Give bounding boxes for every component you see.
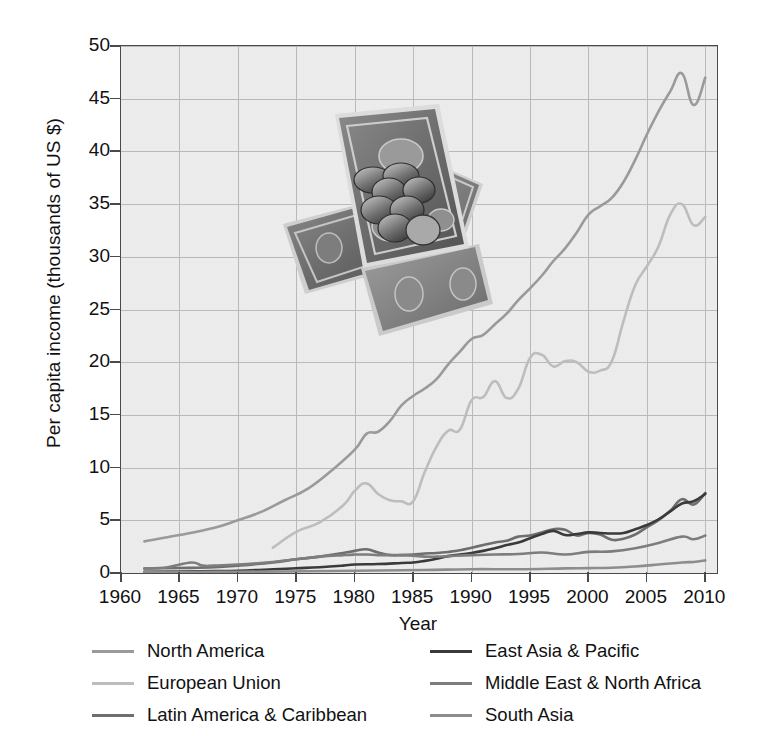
- legend-swatch-icon: [92, 682, 134, 685]
- y-axis-tick-label: 30: [64, 246, 110, 265]
- x-axis-tick-mark: [529, 572, 531, 582]
- legend-item-label: North America: [147, 640, 264, 662]
- x-axis-tick-mark: [704, 572, 706, 582]
- y-axis-tick-labels: 05101520253035404550: [48, 0, 110, 620]
- y-axis-tick-mark: [110, 414, 120, 416]
- y-axis-tick-label: 15: [64, 404, 110, 423]
- y-axis-tick-label: 50: [64, 35, 110, 54]
- x-axis-tick-mark: [237, 572, 239, 582]
- y-axis-tick-mark: [110, 150, 120, 152]
- y-axis-tick-mark: [110, 309, 120, 311]
- legend-swatch-icon: [92, 714, 134, 717]
- legend-item-label: South Asia: [485, 704, 573, 726]
- y-axis-tick-mark: [110, 572, 120, 574]
- y-axis-tick-mark: [110, 519, 120, 521]
- legend-item-label: Middle East & North Africa: [485, 672, 701, 694]
- legend-item[interactable]: North America: [92, 636, 264, 666]
- y-axis-tick-mark: [110, 203, 120, 205]
- legend-item[interactable]: Latin America & Caribbean: [92, 700, 367, 730]
- x-axis-tick-label: 2010: [669, 586, 739, 608]
- legend-item-label: European Union: [147, 672, 281, 694]
- y-axis-tick-label: 20: [64, 351, 110, 370]
- legend-swatch-icon: [430, 682, 472, 685]
- x-axis-tick-mark: [178, 572, 180, 582]
- x-axis-tick-mark: [587, 572, 589, 582]
- x-axis-tick-mark: [646, 572, 648, 582]
- x-axis-label: Year: [120, 613, 716, 635]
- x-axis-tick-mark: [295, 572, 297, 582]
- y-axis-tick-mark: [110, 98, 120, 100]
- x-axis-tick-mark: [412, 572, 414, 582]
- series-line: [144, 494, 705, 572]
- x-axis-tick-mark: [471, 572, 473, 582]
- y-axis-tick-mark: [110, 256, 120, 258]
- legend-swatch-icon: [430, 714, 472, 717]
- y-axis-tick-mark: [110, 45, 120, 47]
- y-axis-tick-label: 35: [64, 193, 110, 212]
- chart-legend: North AmericaEuropean UnionLatin America…: [92, 636, 692, 732]
- data-lines: [121, 46, 717, 573]
- legend-item[interactable]: Middle East & North Africa: [430, 668, 701, 698]
- legend-item[interactable]: East Asia & Pacific: [430, 636, 639, 666]
- chart-figure: Per capita income (thousands of US $) 05…: [0, 0, 769, 736]
- y-axis-tick-label: 45: [64, 88, 110, 107]
- y-axis-tick-mark: [110, 467, 120, 469]
- y-axis-tick-label: 5: [64, 509, 110, 528]
- x-axis-tick-mark: [120, 572, 122, 582]
- legend-item[interactable]: South Asia: [430, 700, 573, 730]
- y-axis-tick-mark: [110, 361, 120, 363]
- y-axis-tick-label: 0: [64, 562, 110, 581]
- legend-item[interactable]: European Union: [92, 668, 281, 698]
- y-axis-tick-label: 25: [64, 299, 110, 318]
- y-axis-tick-label: 10: [64, 457, 110, 476]
- legend-item-label: Latin America & Caribbean: [147, 704, 367, 726]
- legend-swatch-icon: [92, 650, 134, 653]
- legend-item-label: East Asia & Pacific: [485, 640, 639, 662]
- plot-area: [120, 45, 718, 574]
- y-axis-tick-label: 40: [64, 140, 110, 159]
- legend-swatch-icon: [430, 650, 472, 653]
- series-line: [273, 203, 705, 547]
- x-axis-tick-mark: [354, 572, 356, 582]
